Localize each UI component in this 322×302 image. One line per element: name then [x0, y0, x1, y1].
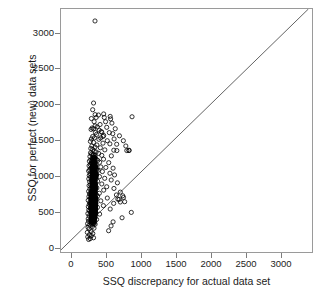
identity-reference-line [61, 9, 308, 250]
x-tick-label-500: 500 [86, 259, 126, 269]
y-tick-label-0: 0 [14, 243, 54, 253]
x-tick-label-2000: 2000 [191, 259, 231, 269]
x-tick-label-3000: 3000 [261, 259, 301, 269]
x-tick-label-1000: 1000 [121, 259, 161, 269]
x-tick-label-2500: 2500 [226, 259, 266, 269]
scatter-points [85, 19, 134, 242]
y-axis-title: SSQ for perfect (new) data sets [26, 12, 38, 244]
x-tick-label-0: 0 [51, 259, 91, 269]
x-axis-title: SSQ discrepancy for actual data set [60, 275, 313, 287]
scatter-plot-figure: 3000 2500 2000 1500 1000 500 0 0 500 100… [0, 0, 322, 302]
plot-area [60, 8, 313, 253]
x-tick-label-1500: 1500 [156, 259, 196, 269]
plot-canvas [61, 9, 312, 252]
